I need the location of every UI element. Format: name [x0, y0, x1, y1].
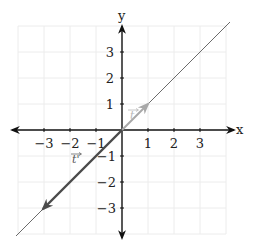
vector-t-prime-label: t'	[71, 153, 82, 167]
x-axis-label: x	[236, 122, 244, 137]
y-tick-label: −2	[97, 175, 116, 190]
y-tick-label: 1	[106, 97, 114, 112]
y-axis-label: y	[117, 8, 126, 23]
x-tick-label: −2	[60, 136, 79, 151]
x-tick-label: 3	[196, 136, 204, 151]
y-tick-label: 2	[106, 71, 114, 86]
y-tick-label: −3	[97, 201, 116, 216]
vector-t-prime	[43, 130, 122, 209]
x-tick-label: 1	[144, 136, 152, 151]
x-tick-label: −3	[34, 136, 53, 151]
svg-text:t: t	[130, 109, 135, 122]
coordinate-plane: x y −3 −2 −1 1 2 3 3 2 1 −1 −2 −3 t t'	[0, 0, 255, 244]
svg-text:t': t'	[72, 153, 79, 166]
y-tick-label: 3	[106, 45, 114, 60]
x-tick-label: 2	[170, 136, 178, 151]
vector-t	[122, 104, 148, 130]
